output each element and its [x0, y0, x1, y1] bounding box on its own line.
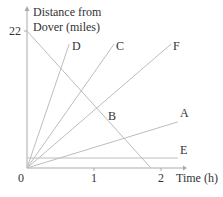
distance-time-chart: 01222Distance fromDover (miles)Time (h)A… [0, 0, 223, 197]
series-line-b [27, 31, 151, 168]
series-line-a [27, 122, 178, 168]
series-label-e: E [180, 143, 187, 157]
series-line-c [27, 44, 114, 168]
x-tick-label: 2 [158, 171, 164, 185]
x-tick-label: 1 [91, 171, 97, 185]
y-tick-label: 22 [9, 24, 21, 38]
series-label-b: B [108, 109, 116, 123]
series-label-a: A [180, 106, 189, 120]
x-axis-arrow-icon [183, 166, 187, 171]
x-axis-label: Time (h) [176, 171, 218, 185]
series-lines [27, 31, 178, 168]
series-label-f: F [173, 39, 180, 53]
series-label-d: D [72, 39, 81, 53]
x-tick-label: 0 [18, 171, 24, 185]
series-label-c: C [116, 39, 124, 53]
y-axis-label-line1: Distance from [33, 5, 102, 19]
y-axis-arrow-icon [25, 6, 30, 11]
y-axis-label-line2: Dover (miles) [33, 20, 100, 34]
